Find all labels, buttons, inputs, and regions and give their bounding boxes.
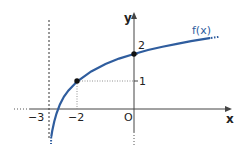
graph-canvas xyxy=(0,0,245,149)
function-label: f(x) xyxy=(192,25,211,36)
point-0-2 xyxy=(131,51,136,56)
curve-continuation xyxy=(211,37,219,38)
tick-label-xm3: −3 xyxy=(28,112,44,123)
origin-label: O xyxy=(124,112,133,123)
tick-label-y2: 2 xyxy=(138,40,145,51)
x-axis-label: x xyxy=(226,113,234,125)
tick-label-y1: 1 xyxy=(139,76,146,87)
tick-label-xm2: −2 xyxy=(68,112,84,123)
y-axis-label: y xyxy=(124,12,132,24)
function-graph: y x f(x) 2 1 −3 −2 O xyxy=(0,0,245,149)
point-m2-1 xyxy=(74,78,79,83)
